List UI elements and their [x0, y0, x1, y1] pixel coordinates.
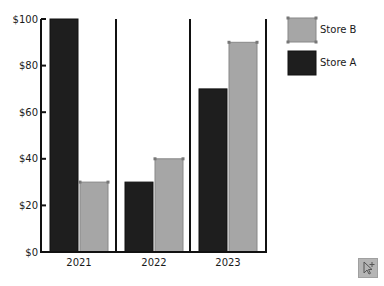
legend-handle: [287, 17, 290, 20]
bars: [50, 19, 259, 252]
bar-handle: [228, 41, 231, 44]
bar-handle: [154, 157, 157, 160]
bar-store-b-2022: [155, 159, 183, 252]
y-tick-label: $80: [19, 60, 38, 71]
bar-store-a-2021: [50, 19, 78, 252]
cursor-plus-icon[interactable]: [358, 258, 378, 278]
legend-handle: [315, 41, 318, 44]
bar-store-b-2023: [229, 42, 257, 252]
bar-store-a-2022: [125, 182, 153, 252]
bar-store-a-2023: [199, 89, 227, 252]
bar-store-b-2021: [80, 182, 108, 252]
legend: Store BStore A: [287, 17, 357, 76]
legend-handle: [315, 17, 318, 20]
legend-handle: [287, 41, 290, 44]
legend-label: Store B: [320, 24, 357, 35]
x-tick-label: 2022: [141, 257, 166, 268]
bar-chart: $0$20$40$60$80$100 202120222023 Store BS…: [0, 0, 384, 286]
legend-label: Store A: [320, 57, 357, 68]
bar-handle: [182, 157, 185, 160]
x-axis-labels: 202120222023: [66, 257, 240, 268]
bar-handle: [256, 41, 259, 44]
x-tick-label: 2023: [215, 257, 240, 268]
y-tick-label: $40: [19, 153, 38, 164]
bar-handle: [79, 181, 82, 184]
bar-handle: [107, 181, 110, 184]
y-tick-label: $100: [13, 14, 38, 25]
y-tick-label: $0: [25, 247, 38, 258]
cursor-plus-glyph: [359, 259, 377, 277]
x-tick-label: 2021: [66, 257, 91, 268]
legend-swatch-store-a: [288, 51, 316, 75]
legend-swatch-store-b: [288, 18, 316, 42]
y-tick-label: $60: [19, 107, 38, 118]
y-tick-label: $20: [19, 200, 38, 211]
